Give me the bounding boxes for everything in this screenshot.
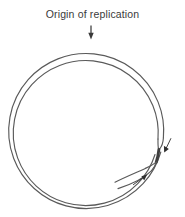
fork-arrow-lower-icon (133, 174, 147, 184)
fork-upper-outer-branch (159, 138, 163, 150)
dna-replication-diagram (0, 0, 185, 217)
origin-pointer-arrow-icon (88, 26, 93, 40)
fork-upper-inner-branch (158, 139, 159, 149)
fork-arrow-upper-icon (164, 139, 171, 153)
dna-inner-strand (13, 61, 158, 206)
figure-root: Origin of replication (0, 0, 185, 217)
dna-outer-strand (9, 54, 164, 209)
